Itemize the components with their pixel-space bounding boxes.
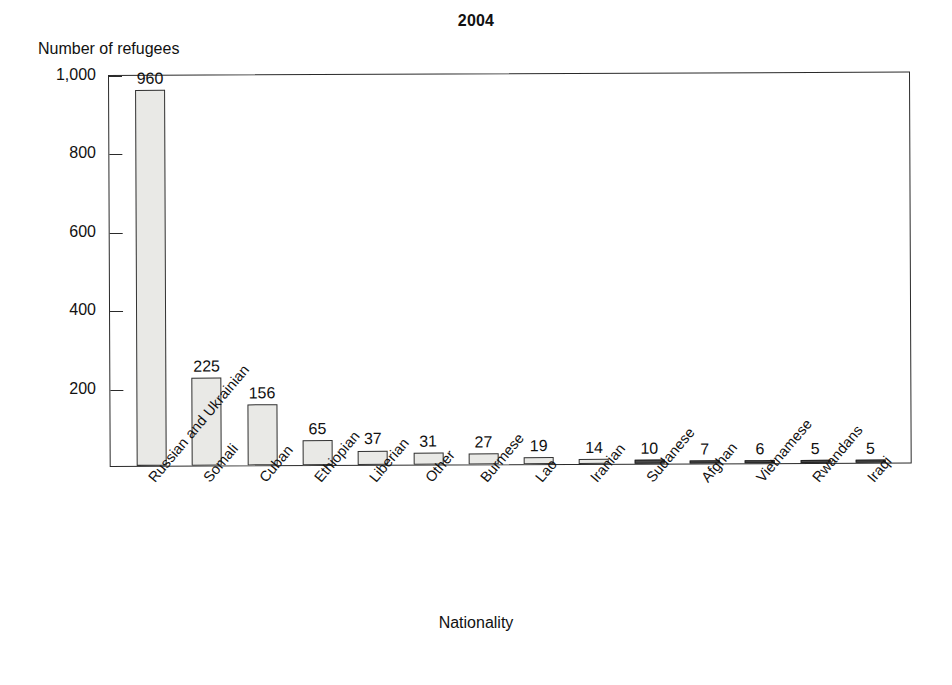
y-axis-tick-label: 800 <box>69 144 96 162</box>
x-axis-category-labels: Russian and UkrainianSomaliCubanEthiopia… <box>0 467 952 617</box>
bar-value-label: 37 <box>364 430 382 448</box>
bar-value-label: 31 <box>419 432 437 450</box>
bar-value-label: 6 <box>755 440 764 458</box>
chart-title: 2004 <box>0 12 952 30</box>
plot-inner: 960225156653731271914107655 <box>109 73 911 466</box>
bar-value-label: 5 <box>866 440 875 458</box>
y-axis-tick <box>109 76 122 77</box>
y-axis-tick <box>110 311 123 312</box>
y-axis-title: Number of refugees <box>38 40 179 58</box>
bar-value-label: 7 <box>700 440 709 458</box>
y-axis-tick <box>110 390 123 391</box>
y-axis-tick-label: 200 <box>69 380 96 398</box>
bar-value-label: 14 <box>585 438 603 456</box>
y-axis-tick <box>109 154 122 155</box>
y-axis-tick-label: 600 <box>69 223 96 241</box>
bar-value-label: 10 <box>640 440 658 458</box>
bar-value-label: 5 <box>811 440 820 458</box>
bar-value-label: 156 <box>249 384 276 402</box>
y-axis-tick-label: 1,000 <box>56 66 96 84</box>
bar-value-label: 960 <box>137 69 164 87</box>
bar-value-label: 27 <box>474 434 492 452</box>
y-axis-tick-labels: 2004006008001,000 <box>0 75 108 467</box>
bar-value-label: 225 <box>193 357 220 375</box>
x-axis-title: Nationality <box>0 614 952 632</box>
plot-area: 960225156653731271914107655 <box>108 72 912 467</box>
y-axis-tick <box>110 233 123 234</box>
bar-value-label: 65 <box>308 420 326 438</box>
chart-canvas: 2004 Number of refugees 2004006008001,00… <box>0 0 952 685</box>
bar[interactable] <box>135 89 167 465</box>
bar-value-label: 19 <box>530 437 548 455</box>
y-axis-tick-label: 400 <box>69 301 96 319</box>
